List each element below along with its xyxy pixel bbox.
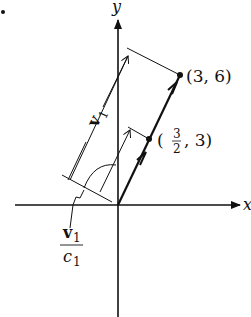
y-axis-label: y (111, 0, 122, 16)
bullet-mark (1, 10, 5, 14)
vector-diagram: y x (3, 6) ( 3 2 , 3) v 1 v 1 c 1 (0, 0, 251, 317)
svg-text:, 3): , 3) (184, 130, 212, 150)
arrowhead-icon (168, 82, 177, 94)
tick-mid (128, 127, 149, 139)
x-axis-label: x (243, 195, 251, 214)
svg-text:1: 1 (73, 231, 81, 245)
arrowhead-icon (141, 139, 149, 160)
svg-text:(: ( (157, 130, 164, 150)
v1-label: v 1 (82, 104, 111, 132)
v1-over-c1-label: v 1 c 1 (60, 223, 83, 269)
axes (15, 20, 240, 317)
svg-text:3: 3 (173, 127, 181, 141)
svg-text:1: 1 (73, 255, 81, 269)
point-label-3half-3: ( 3 2 , 3) (157, 127, 212, 156)
tick-bottom (62, 175, 112, 202)
svg-text:c: c (63, 247, 72, 266)
point-label-3-6: (3, 6) (186, 66, 232, 86)
tick-top (127, 48, 180, 75)
svg-text:2: 2 (173, 142, 181, 156)
svg-text:v: v (62, 223, 73, 242)
